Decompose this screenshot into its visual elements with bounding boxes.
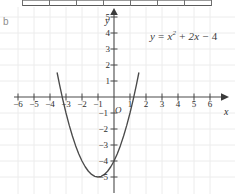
- table-cell-divider: [76, 0, 77, 6]
- y-tick-label: 1: [96, 77, 110, 86]
- equation-minus: −: [202, 30, 208, 42]
- y-tick-label: −2: [94, 125, 108, 134]
- equation-term3: 4: [212, 30, 218, 42]
- y-tick-label: 3: [96, 45, 110, 54]
- table-cell-divider: [157, 0, 158, 6]
- y-axis-arrow: [110, 8, 118, 15]
- equation-lhs: y: [150, 30, 155, 42]
- x-tick-label: −5: [27, 100, 41, 109]
- table-cell-divider: [103, 0, 104, 6]
- x-tick-label: 6: [203, 100, 217, 109]
- table-cell-divider: [184, 0, 185, 6]
- graph-plot: b y = x2 + 2x − 4 x y O −6 −5 −4 −3 −2 −…: [0, 7, 235, 194]
- x-tick-label: −2: [75, 100, 89, 109]
- x-axis-label: x: [224, 106, 228, 117]
- table-cell-divider: [22, 0, 23, 6]
- x-tick-label: 1: [123, 100, 137, 109]
- equation-exponent: 2: [173, 29, 177, 37]
- y-tick-label: −5: [94, 173, 108, 182]
- equation-plus: +: [179, 30, 185, 42]
- origin-label: O: [115, 105, 122, 115]
- figure-root: b y = x2 + 2x − 4 x y O −6 −5 −4 −3 −2 −…: [0, 0, 235, 194]
- x-tick-label: −4: [43, 100, 57, 109]
- y-tick-label: 2: [96, 61, 110, 70]
- equation-equals: =: [158, 30, 164, 42]
- table-cell-divider: [130, 0, 131, 6]
- panel-label: b: [3, 17, 9, 27]
- x-axis-arrow: [221, 93, 229, 101]
- y-tick-label: −4: [94, 157, 108, 166]
- equation-label: y = x2 + 2x − 4: [150, 29, 217, 42]
- equation-term2: 2x: [189, 30, 200, 42]
- x-tick-label: −6: [11, 100, 25, 109]
- x-tick-label: 5: [187, 100, 201, 109]
- x-tick-label: 2: [139, 100, 153, 109]
- x-tick-label: 4: [171, 100, 185, 109]
- x-tick-label: −3: [59, 100, 73, 109]
- y-tick-label: 4: [96, 29, 110, 38]
- table-fragment: [0, 0, 235, 7]
- y-tick-label: −1: [94, 109, 108, 118]
- y-tick-label: 5: [96, 13, 110, 22]
- y-tick-label: −3: [94, 141, 108, 150]
- table-cell-divider: [49, 0, 50, 6]
- x-tick-label: 3: [155, 100, 169, 109]
- table-cell-divider: [211, 0, 212, 6]
